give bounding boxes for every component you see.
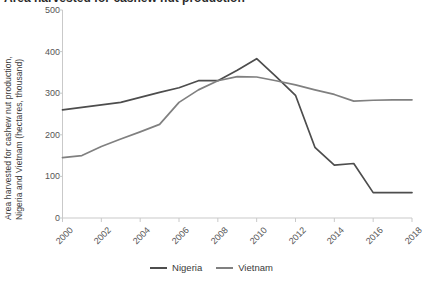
series-line-vietnam xyxy=(63,77,413,158)
chart-legend: NigeriaVietnam xyxy=(0,262,423,273)
legend-label-vietnam: Vietnam xyxy=(238,262,273,273)
legend-item-nigeria[interactable]: Nigeria xyxy=(150,262,202,273)
legend-swatch-vietnam xyxy=(216,267,233,269)
series-line-nigeria xyxy=(63,59,413,193)
legend-label-nigeria: Nigeria xyxy=(172,262,202,273)
legend-item-vietnam[interactable]: Vietnam xyxy=(216,262,273,273)
legend-swatch-nigeria xyxy=(150,267,167,269)
plot-area xyxy=(0,0,423,284)
cashew-area-harvested-line-chart: Area harvested for cashew nut production… xyxy=(0,0,423,284)
